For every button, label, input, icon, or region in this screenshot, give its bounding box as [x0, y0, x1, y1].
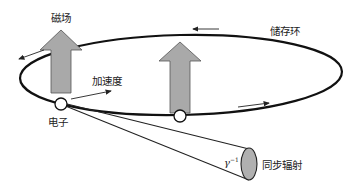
electron-2 — [174, 110, 186, 122]
storage-ring-label: 储存环 — [270, 26, 300, 37]
acceleration-arrow — [71, 91, 111, 99]
acceleration-label: 加速度 — [92, 76, 122, 87]
magnetic-field-arrow-2 — [159, 42, 201, 113]
opening-angle-label: γ−1 — [224, 157, 239, 168]
electron-label: 电子 — [48, 117, 68, 128]
gamma-exponent: −1 — [230, 156, 239, 163]
synchrotron-radiation-label: 同步辐射 — [262, 160, 302, 171]
direction-arrow-right — [238, 103, 269, 107]
electron-1 — [55, 98, 67, 110]
radiation-cone-end — [241, 148, 257, 180]
magnetic-field-arrow-1 — [40, 30, 82, 93]
magnetic-field-label: 磁场 — [51, 13, 71, 24]
